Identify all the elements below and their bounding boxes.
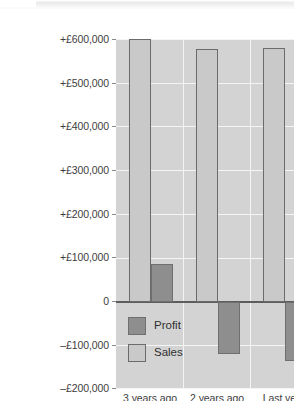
bar-chart-figure: +£600,000 +£500,000 +£400,000 +£300,000 …	[40, 16, 294, 401]
y-tick-label-neg200000: –£200,000	[60, 383, 109, 394]
x-axis: 3 years ago 2 years ago Last year	[116, 392, 294, 401]
x-tick-label-last-year: Last year	[250, 392, 294, 401]
y-tick-label-400000: +£400,000	[60, 121, 109, 132]
y-tick-label-600000: +£600,000	[60, 34, 109, 45]
bar-sales-2-years-ago	[196, 49, 218, 302]
y-axis: +£600,000 +£500,000 +£400,000 +£300,000 …	[40, 16, 116, 401]
y-tick-label-500000: +£500,000	[60, 78, 109, 89]
legend-label-sales: Sales	[154, 345, 183, 360]
scan-artifact-band-secondary	[0, 7, 294, 9]
gridline-neg200000	[116, 388, 294, 389]
bar-profit-3-years-ago	[151, 264, 173, 302]
bar-sales-3-years-ago	[129, 39, 151, 302]
y-tick-label-300000: +£300,000	[60, 165, 109, 176]
y-tick-label-zero: 0	[103, 296, 109, 307]
bar-sales-last-year	[263, 48, 285, 302]
sales-swatch-icon	[128, 344, 146, 362]
y-tick-label-100000: +£100,000	[60, 252, 109, 263]
bar-profit-last-year	[285, 302, 294, 361]
gridline-vertical-1	[183, 39, 184, 389]
bar-profit-2-years-ago	[218, 302, 240, 354]
plot-area: Profit Sales	[116, 39, 294, 389]
x-tick-label-3-years-ago: 3 years ago	[116, 392, 184, 401]
legend-label-profit: Profit	[154, 318, 181, 333]
gridline-vertical-2	[250, 39, 251, 389]
y-tick-label-neg100000: –£100,000	[60, 340, 109, 351]
x-tick-label-2-years-ago: 2 years ago	[183, 392, 251, 401]
profit-swatch-icon	[128, 317, 146, 335]
y-tick-label-200000: +£200,000	[60, 209, 109, 220]
